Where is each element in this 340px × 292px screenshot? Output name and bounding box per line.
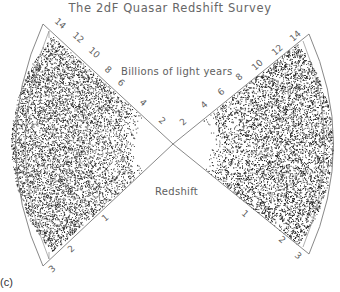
svg-text:3: 3 (293, 250, 304, 261)
svg-text:3: 3 (47, 263, 58, 274)
svg-text:2: 2 (157, 115, 168, 126)
svg-text:2: 2 (66, 243, 77, 254)
svg-text:8: 8 (103, 64, 114, 75)
panel-label: (c) (0, 276, 13, 288)
quasar-survey-figure: The 2dF Quasar Redshift Survey 14 12 10 … (0, 0, 340, 292)
upper-axis-label: Billions of light years (121, 66, 232, 77)
lower-axis-label: Redshift (155, 186, 198, 197)
svg-text:10: 10 (87, 45, 102, 60)
svg-text:12: 12 (71, 30, 86, 45)
svg-text:10: 10 (250, 57, 265, 72)
svg-text:14: 14 (53, 16, 68, 31)
svg-text:1: 1 (240, 208, 251, 219)
svg-text:2: 2 (178, 116, 189, 127)
svg-text:4: 4 (199, 99, 210, 110)
right-lower-ticks: 1 2 3 (240, 208, 304, 261)
svg-text:1: 1 (100, 212, 111, 223)
svg-text:8: 8 (234, 71, 245, 82)
wedge-diagram: 14 12 10 8 6 4 2 2 4 6 8 10 12 14 1 2 3 … (0, 0, 340, 292)
svg-text:6: 6 (216, 86, 227, 97)
svg-text:4: 4 (138, 97, 149, 108)
right-upper-ticks: 2 4 6 8 10 12 14 (178, 28, 303, 127)
svg-text:2: 2 (277, 234, 288, 245)
svg-text:6: 6 (116, 77, 127, 88)
